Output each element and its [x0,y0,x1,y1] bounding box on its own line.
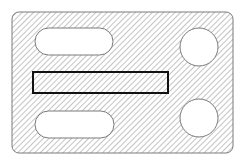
bottom-right-hole [180,99,218,137]
top-left-slot [35,28,113,55]
bottom-left-slot [35,111,114,138]
diagram-canvas [0,0,244,160]
top-right-hole [180,28,218,66]
plate-diagram [0,0,244,160]
